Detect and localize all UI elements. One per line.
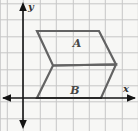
label-parallelogram-a: A: [72, 37, 82, 50]
coordinate-plane: A B x y: [0, 0, 138, 131]
x-axis-left-arrow-icon: [2, 94, 11, 102]
x-axis-right-arrow-icon: [127, 94, 136, 102]
y-axis-up-arrow-icon: [19, 2, 27, 11]
figure-svg: A B x y: [0, 0, 138, 131]
x-axis-label: x: [122, 83, 130, 94]
y-axis-label: y: [27, 1, 35, 12]
label-parallelogram-b: B: [69, 84, 79, 97]
y-axis-down-arrow-icon: [19, 120, 27, 129]
